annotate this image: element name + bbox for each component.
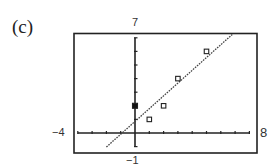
filled-square-point [133, 103, 138, 108]
calculator-graph [0, 0, 270, 166]
regression-line [106, 35, 232, 147]
open-square-point [176, 76, 181, 81]
open-square-point [204, 49, 209, 54]
graph-frame [74, 34, 257, 154]
data-points [133, 49, 209, 122]
open-square-point [147, 117, 152, 122]
open-square-point [161, 104, 166, 109]
regression-line-path [106, 35, 232, 147]
axes [78, 38, 250, 147]
